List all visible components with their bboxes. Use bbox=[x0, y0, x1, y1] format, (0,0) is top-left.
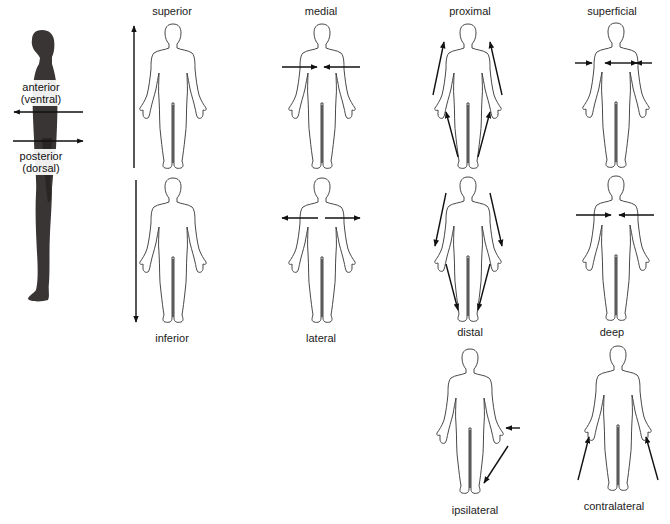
distal-arm-right-arrow-icon bbox=[490, 193, 502, 246]
contralateral-right-arrow-icon bbox=[646, 437, 658, 480]
proximal-arm-right-arrow-icon bbox=[490, 42, 502, 95]
distal-arm-left-arrow-icon bbox=[435, 193, 446, 246]
proximal-arm-left-arrow-icon bbox=[433, 42, 444, 95]
proximal-leg-right-arrow-icon bbox=[478, 112, 490, 157]
direction-arrows bbox=[0, 0, 670, 524]
contralateral-left-arrow-icon bbox=[578, 437, 589, 480]
proximal-leg-left-arrow-icon bbox=[446, 112, 458, 157]
distal-leg-left-arrow-icon bbox=[446, 264, 458, 310]
distal-leg-right-arrow-icon bbox=[478, 264, 490, 310]
ipsilateral-foot-arrow-icon bbox=[484, 446, 508, 483]
